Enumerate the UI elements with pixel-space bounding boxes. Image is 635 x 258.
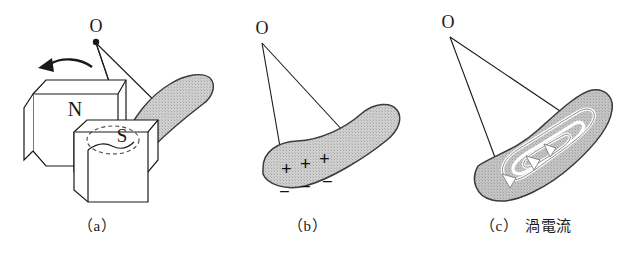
caption-b-text: （b） <box>288 218 327 234</box>
caption-a-text: （a） <box>78 218 116 234</box>
charge-plus-2: + <box>300 153 311 174</box>
charge-minus-2: − <box>300 176 311 197</box>
suspension-line-left <box>450 37 496 160</box>
charge-plus-3: + <box>319 148 330 169</box>
pivot-label-o-c: O <box>442 12 455 32</box>
caption-panel-a: （a） <box>78 214 116 235</box>
figure-eddy-current-pendulum: N S O <box>0 0 635 258</box>
charge-minus-3: − <box>322 171 333 192</box>
magnet-south-block: S <box>74 120 158 202</box>
caption-c-japanese-label: 渦電流 <box>525 217 572 235</box>
pivot-label-o-a: O <box>90 16 103 36</box>
suspension-line-right <box>262 43 345 133</box>
motion-arrow-icon <box>38 58 92 72</box>
caption-panel-c: （c）渦電流 <box>480 214 572 235</box>
charge-plus-1: + <box>281 158 292 179</box>
pivot-label-o-b: O <box>256 18 269 38</box>
caption-c-text: （c） <box>480 218 518 234</box>
label-south-pole: S <box>117 125 128 146</box>
label-north-pole: N <box>68 98 82 120</box>
caption-panel-b: （b） <box>288 214 327 235</box>
charge-minus-1: − <box>279 181 290 202</box>
suspension-line-right <box>450 37 563 113</box>
